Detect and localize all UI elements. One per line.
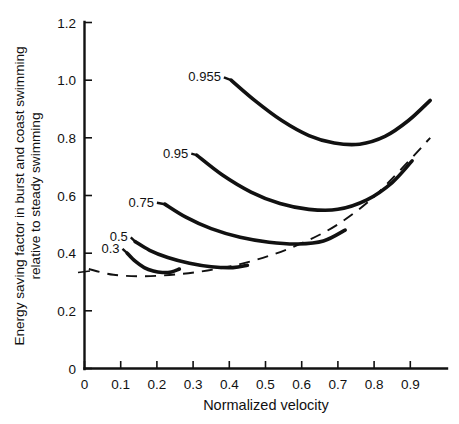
- curve-0.95: [197, 155, 412, 210]
- curve-leader-0.75: [157, 203, 165, 205]
- x-tick-label-5: 0.5: [256, 377, 275, 392]
- y-axis-tick-labels: 0 0.2 0.4 0.6 0.8 1.0 1.2: [57, 16, 76, 377]
- data-curves: [89, 80, 430, 276]
- y-tick-label-4: 0.8: [57, 131, 76, 146]
- asymptote-marker-tick: [78, 271, 90, 273]
- y-axis-title-line-2: relative to steady swimming: [28, 113, 43, 280]
- x-tick-label-6: 0.6: [292, 377, 311, 392]
- x-tick-label-2: 0.2: [148, 377, 167, 392]
- x-tick-label-4: 0.4: [220, 377, 239, 392]
- y-tick-label-5: 1.0: [57, 73, 76, 88]
- curve-0.955: [231, 80, 430, 145]
- curve-label-0.5: 0.5: [110, 229, 128, 244]
- x-axis-title: Normalized velocity: [203, 397, 329, 413]
- curve-leader-0.3: [123, 249, 128, 253]
- curve-label-0.955: 0.955: [188, 69, 221, 84]
- y-tick-label-1: 0.2: [57, 304, 76, 319]
- y-axis-title: Energy saving factor in burst and coast …: [12, 46, 43, 345]
- y-tick-label-2: 0.4: [57, 246, 76, 261]
- curve-0.3: [127, 253, 179, 272]
- curve-label-0.95: 0.95: [163, 146, 188, 161]
- x-tick-label-7: 0.7: [329, 377, 348, 392]
- y-tick-label-3: 0.6: [57, 189, 76, 204]
- y-axis-title-line-1: Energy saving factor in burst and coast …: [12, 46, 27, 345]
- x-tick-label-1: 0.1: [111, 377, 130, 392]
- curve-leader-0.5: [131, 237, 135, 241]
- curve-leader-0.955: [224, 77, 231, 80]
- curve-leader-0.95: [191, 154, 196, 155]
- energy-saving-factor-chart: 0 0.2 0.4 0.6 0.8 1.0 1.2 0 0.1 0.2 0.3 …: [0, 0, 459, 424]
- chart-figure: 0 0.2 0.4 0.6 0.8 1.0 1.2 0 0.1 0.2 0.3 …: [0, 0, 459, 424]
- x-tick-label-9: 0.9: [401, 377, 420, 392]
- curve-label-0.75: 0.75: [129, 195, 154, 210]
- x-tick-label-8: 0.8: [365, 377, 384, 392]
- y-tick-label-6: 1.2: [57, 16, 76, 31]
- x-tick-label-0: 0: [81, 377, 89, 392]
- curve-0.5: [135, 242, 247, 268]
- x-axis-tick-labels: 0 0.1 0.2 0.3 0.4 0.5 0.6 0.7 0.8 0.9: [81, 377, 420, 392]
- x-tick-label-3: 0.3: [184, 377, 203, 392]
- y-tick-label-0: 0: [68, 362, 76, 377]
